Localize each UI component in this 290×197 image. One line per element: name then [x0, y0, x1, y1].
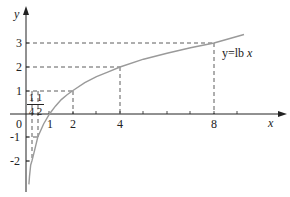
y-tick-label: 3 — [16, 37, 22, 49]
tick-marks — [26, 43, 237, 161]
x-tick-label: 4 — [117, 118, 123, 130]
x-fraction-label-half: 1 2 — [35, 92, 44, 117]
origin-label: 0 — [16, 118, 22, 130]
curve-label-variable: x — [247, 46, 252, 60]
x-axis-label: x — [268, 117, 273, 129]
y-axis-label: y — [14, 8, 19, 20]
guide-lines — [26, 43, 214, 161]
y-tick-label: 1 — [16, 85, 22, 97]
fraction-numerator: 1 — [35, 92, 44, 103]
y-tick-label: -1 — [10, 131, 20, 143]
x-axis-arrow-icon — [278, 111, 287, 117]
y-tick-label: -2 — [10, 155, 20, 167]
y-tick-label: 2 — [16, 61, 22, 73]
y-axis-arrow-icon — [23, 6, 29, 15]
x-tick-label: 8 — [211, 118, 217, 130]
fraction-denominator: 2 — [35, 106, 44, 117]
x-tick-label: 1 — [47, 118, 53, 130]
curve-label-prefix: y=lb — [222, 46, 244, 60]
curve-label: y=lb x — [222, 47, 252, 59]
axes — [10, 6, 287, 192]
x-tick-label: 2 — [70, 118, 76, 130]
log-curve — [29, 35, 244, 185]
